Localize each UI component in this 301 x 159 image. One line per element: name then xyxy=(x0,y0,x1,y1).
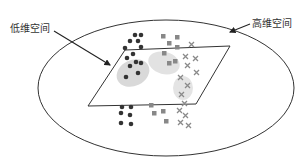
high-dim-space-label: 高维空间 xyxy=(252,18,292,30)
arrow-high-dim xyxy=(230,24,250,32)
diagram: 低维空间 高维空间 xyxy=(0,0,301,159)
low-dim-space-label: 低维空间 xyxy=(10,23,50,35)
